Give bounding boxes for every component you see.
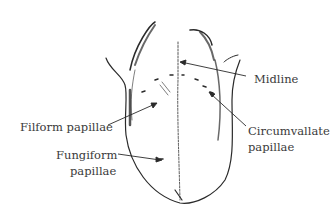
label-fungiform-line1: Fungiform — [56, 148, 117, 163]
tongue-illustration — [0, 0, 336, 217]
label-circumvallate-line2: papillae — [248, 140, 294, 155]
label-circumvallate-line1: Circumvallate — [248, 124, 330, 139]
label-filiform-papillae: Filform papillae — [20, 120, 113, 135]
tongue-diagram: Midline Filform papillae Fungiform papil… — [0, 0, 336, 217]
label-fungiform-line2: papillae — [70, 164, 116, 179]
label-midline: Midline — [254, 72, 298, 87]
